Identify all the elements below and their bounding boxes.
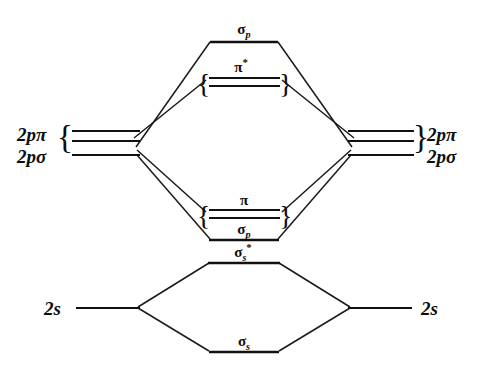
label-left-2p-sigma: 2pσ <box>16 146 47 167</box>
label-right-2p-sigma: 2pσ <box>426 146 457 167</box>
right-atomic-orbital-levels <box>348 131 414 308</box>
brace-open-pi-star: { <box>197 68 210 99</box>
brace-close-pi-bonding: } <box>279 200 292 231</box>
left-atomic-orbital-levels <box>72 131 140 308</box>
label-sigma-s-star: σs* <box>234 241 252 263</box>
label-pi-bonding-base: π <box>240 192 249 208</box>
label-pi-star-sup: * <box>242 56 247 68</box>
correlation-line-left-pi-to-pi-bonding <box>137 150 206 212</box>
label-left-2s: 2s <box>43 298 61 319</box>
correlation-line-right-2s-to-sigma-s <box>279 308 350 351</box>
correlation-line-right-pi-to-pistar <box>282 80 354 138</box>
molecular-orbital-labels: σp π* π σp σs* σs <box>234 21 252 352</box>
brace-close-pi-star: } <box>279 68 292 99</box>
correlation-line-left-2s-to-sigma-s <box>138 308 209 351</box>
correlation-line-left-2s-to-sigma-s-star <box>138 263 209 307</box>
mo-diagram-canvas: { } { } { } 2pπ 2pσ 2s 2pπ 2pσ 2s σp <box>0 0 488 366</box>
mo-diagram-svg: { } { } { } 2pπ 2pσ 2s 2pπ 2pσ 2s σp <box>0 0 488 366</box>
correlation-line-left-pi-to-pistar <box>134 80 206 138</box>
label-sigma-p-bonding: σp <box>237 221 250 240</box>
label-sigma-s-bonding-sub: s <box>245 341 250 352</box>
label-sigma-s-bonding: σs <box>238 333 250 352</box>
label-sigma-s-star-sup: * <box>246 241 251 253</box>
correlation-line-right-2s-to-sigma-s-star <box>279 263 350 307</box>
label-right-2s: 2s <box>420 298 438 319</box>
label-sigma-s-star-sub: s <box>241 252 246 263</box>
label-sigma-p-antibonding-sub: p <box>245 29 251 40</box>
label-left-2p-pi: 2pπ <box>16 124 47 145</box>
label-pi-bonding: π <box>240 192 249 208</box>
label-pi-star: π* <box>234 56 248 75</box>
label-right-2p-pi: 2pπ <box>426 124 457 145</box>
label-sigma-p-antibonding: σp <box>237 21 250 40</box>
brace-left-2p-pi: { <box>57 119 73 155</box>
brace-open-pi-bonding: { <box>197 200 210 231</box>
label-sigma-p-bonding-sub: p <box>245 229 251 240</box>
